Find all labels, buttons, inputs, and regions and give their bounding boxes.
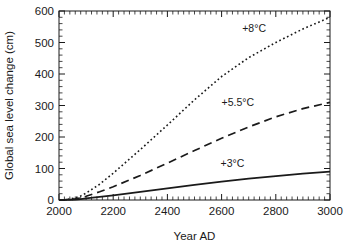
y-tick-label: 200 <box>35 131 54 143</box>
x-tick-label: 2000 <box>46 205 72 217</box>
y-tick-label: 0 <box>48 194 54 206</box>
series-label-3C: +3°C <box>221 157 245 169</box>
y-tick-label: 500 <box>35 37 54 49</box>
y-tick-label: 300 <box>35 100 54 112</box>
y-tick-label: 600 <box>35 5 54 17</box>
x-tick-label: 3000 <box>317 205 343 217</box>
sea-level-line-chart: 200022002400260028003000 010020030040050… <box>0 0 346 248</box>
y-axis-label: Global sea level change (cm) <box>3 31 15 180</box>
x-tick-label: 2400 <box>155 205 181 217</box>
chart-container: 200022002400260028003000 010020030040050… <box>0 0 346 248</box>
series-label-55C: +5.5°C <box>222 96 255 108</box>
x-tick-label: 2200 <box>100 205 126 217</box>
y-tick-label: 400 <box>35 68 54 80</box>
x-axis-label: Year AD <box>174 230 216 242</box>
x-tick-label: 2800 <box>263 205 289 217</box>
x-tick-label: 2600 <box>209 205 235 217</box>
y-tick-label: 100 <box>35 163 54 175</box>
series-label-8C: +8°C <box>242 22 266 34</box>
